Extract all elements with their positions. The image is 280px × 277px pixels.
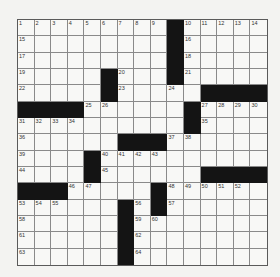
grid-cell[interactable]: 47	[84, 183, 101, 199]
grid-cell[interactable]	[68, 151, 85, 167]
grid-cell[interactable]: 11	[201, 20, 218, 36]
grid-cell[interactable]: 32	[35, 118, 52, 134]
grid-cell[interactable]	[68, 200, 85, 216]
grid-cell[interactable]	[234, 232, 251, 248]
grid-cell[interactable]	[167, 102, 184, 118]
grid-cell[interactable]	[84, 69, 101, 85]
grid-cell[interactable]: 37	[167, 134, 184, 150]
grid-cell[interactable]: 7	[118, 20, 135, 36]
grid-cell[interactable]	[51, 69, 68, 85]
grid-cell[interactable]	[250, 151, 267, 167]
grid-cell[interactable]	[217, 69, 234, 85]
grid-cell[interactable]	[134, 167, 151, 183]
grid-cell[interactable]	[217, 134, 234, 150]
grid-cell[interactable]: 44	[18, 167, 35, 183]
grid-cell[interactable]: 16	[184, 36, 201, 52]
grid-cell[interactable]	[35, 36, 52, 52]
grid-cell[interactable]	[234, 151, 251, 167]
grid-cell[interactable]	[68, 134, 85, 150]
grid-cell[interactable]	[184, 249, 201, 265]
grid-cell[interactable]: 52	[234, 183, 251, 199]
grid-cell[interactable]	[201, 53, 218, 69]
grid-cell[interactable]: 8	[134, 20, 151, 36]
grid-cell[interactable]	[134, 53, 151, 69]
grid-cell[interactable]	[134, 69, 151, 85]
grid-cell[interactable]	[151, 36, 168, 52]
grid-cell[interactable]: 24	[167, 85, 184, 101]
grid-cell[interactable]	[151, 53, 168, 69]
grid-cell[interactable]	[118, 36, 135, 52]
grid-cell[interactable]: 36	[18, 134, 35, 150]
grid-cell[interactable]	[234, 69, 251, 85]
grid-cell[interactable]: 63	[18, 249, 35, 265]
grid-cell[interactable]	[151, 85, 168, 101]
grid-cell[interactable]: 28	[217, 102, 234, 118]
grid-cell[interactable]	[68, 232, 85, 248]
grid-cell[interactable]: 49	[184, 183, 201, 199]
grid-cell[interactable]	[118, 53, 135, 69]
grid-cell[interactable]	[167, 118, 184, 134]
grid-cell[interactable]: 29	[234, 102, 251, 118]
grid-cell[interactable]	[51, 216, 68, 232]
grid-cell[interactable]: 27	[201, 102, 218, 118]
grid-cell[interactable]: 51	[217, 183, 234, 199]
grid-cell[interactable]	[101, 249, 118, 265]
grid-cell[interactable]	[234, 249, 251, 265]
grid-cell[interactable]: 48	[167, 183, 184, 199]
grid-cell[interactable]	[68, 167, 85, 183]
grid-cell[interactable]	[134, 85, 151, 101]
grid-cell[interactable]	[234, 216, 251, 232]
grid-cell[interactable]	[84, 249, 101, 265]
grid-cell[interactable]	[35, 53, 52, 69]
grid-cell[interactable]: 62	[134, 232, 151, 248]
grid-cell[interactable]: 5	[84, 20, 101, 36]
grid-cell[interactable]	[217, 216, 234, 232]
grid-cell[interactable]	[151, 102, 168, 118]
grid-cell[interactable]	[118, 167, 135, 183]
grid-cell[interactable]: 25	[84, 102, 101, 118]
grid-cell[interactable]	[217, 151, 234, 167]
grid-cell[interactable]: 2	[35, 20, 52, 36]
grid-cell[interactable]	[101, 53, 118, 69]
grid-cell[interactable]	[250, 232, 267, 248]
grid-cell[interactable]	[250, 36, 267, 52]
grid-cell[interactable]	[84, 232, 101, 248]
grid-cell[interactable]: 3	[51, 20, 68, 36]
grid-cell[interactable]	[101, 134, 118, 150]
grid-cell[interactable]	[184, 200, 201, 216]
grid-cell[interactable]	[167, 216, 184, 232]
grid-cell[interactable]: 61	[18, 232, 35, 248]
grid-cell[interactable]: 45	[101, 167, 118, 183]
grid-cell[interactable]	[234, 134, 251, 150]
grid-cell[interactable]: 1	[18, 20, 35, 36]
grid-cell[interactable]	[68, 53, 85, 69]
grid-cell[interactable]	[234, 118, 251, 134]
grid-cell[interactable]	[51, 85, 68, 101]
grid-cell[interactable]	[84, 36, 101, 52]
grid-cell[interactable]: 33	[51, 118, 68, 134]
grid-cell[interactable]	[250, 53, 267, 69]
grid-cell[interactable]	[151, 232, 168, 248]
grid-cell[interactable]	[134, 183, 151, 199]
grid-cell[interactable]	[250, 200, 267, 216]
grid-cell[interactable]	[35, 249, 52, 265]
grid-cell[interactable]: 58	[18, 216, 35, 232]
grid-cell[interactable]	[151, 118, 168, 134]
grid-cell[interactable]: 39	[18, 151, 35, 167]
grid-cell[interactable]: 57	[167, 200, 184, 216]
grid-cell[interactable]: 17	[18, 53, 35, 69]
grid-cell[interactable]: 43	[151, 151, 168, 167]
grid-cell[interactable]	[35, 151, 52, 167]
grid-cell[interactable]: 38	[184, 134, 201, 150]
grid-cell[interactable]	[118, 183, 135, 199]
grid-cell[interactable]	[134, 102, 151, 118]
grid-cell[interactable]: 64	[134, 249, 151, 265]
grid-cell[interactable]	[68, 69, 85, 85]
grid-cell[interactable]	[184, 232, 201, 248]
grid-cell[interactable]	[35, 85, 52, 101]
grid-cell[interactable]	[101, 216, 118, 232]
grid-cell[interactable]	[51, 167, 68, 183]
grid-cell[interactable]	[250, 183, 267, 199]
grid-cell[interactable]: 53	[18, 200, 35, 216]
grid-cell[interactable]: 31	[18, 118, 35, 134]
